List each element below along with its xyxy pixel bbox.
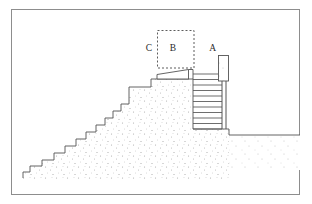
figure-canvas: C B A bbox=[0, 0, 312, 204]
ground-stipple-fill bbox=[225, 130, 305, 170]
label-a: A bbox=[209, 43, 216, 53]
label-c: C bbox=[146, 43, 153, 53]
technical-line-drawing: C B A bbox=[0, 0, 312, 204]
label-b: B bbox=[170, 43, 177, 53]
